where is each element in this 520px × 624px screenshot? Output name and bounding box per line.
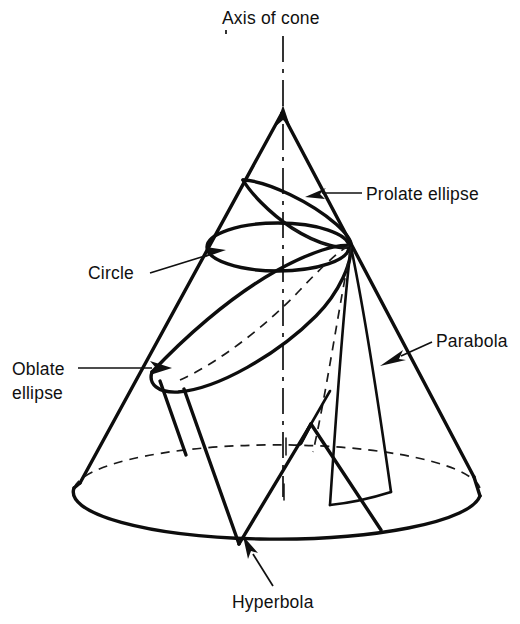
hyperbola-right-branch	[311, 424, 381, 530]
parabola-label: Parabola	[436, 331, 508, 351]
oblate-ellipse-label-line1: Oblate	[12, 359, 65, 379]
oblate-ellipse-label-line2: ellipse	[12, 383, 63, 403]
cone-base-front-arc	[73, 488, 480, 539]
hyperbola-label: Hyperbola	[232, 592, 314, 612]
label-axis-group: Axis of cone	[222, 8, 320, 34]
axis-label: Axis of cone	[222, 8, 320, 28]
cone-base-back-arc	[74, 445, 481, 496]
cone-base-left-join	[74, 483, 80, 488]
parabola-hidden-curve	[313, 247, 351, 452]
oblate-ellipse-section	[151, 245, 351, 392]
parabola-section	[313, 247, 391, 505]
hyperbola-section	[239, 391, 381, 544]
cone-body	[73, 113, 480, 539]
circle-label: Circle	[88, 263, 134, 283]
parabola-arrowhead-icon	[380, 350, 406, 366]
label-prolate-ellipse-group: Prolate ellipse	[305, 184, 479, 204]
label-oblate-ellipse-group: Oblate ellipse	[12, 359, 172, 403]
hyperbola-upper-trace	[311, 391, 330, 424]
hyperbola-leader	[253, 554, 273, 586]
cone-left-edge	[80, 113, 282, 483]
oblate-trace-to-base-right	[184, 389, 239, 544]
hyperbola-trace-upper	[300, 424, 311, 444]
prolate-ellipse-label: Prolate ellipse	[366, 184, 479, 204]
conic-sections-figure: Axis of cone Prolate ellipse Parabola Ci…	[0, 0, 520, 624]
label-hyperbola-group: Hyperbola	[232, 536, 314, 612]
